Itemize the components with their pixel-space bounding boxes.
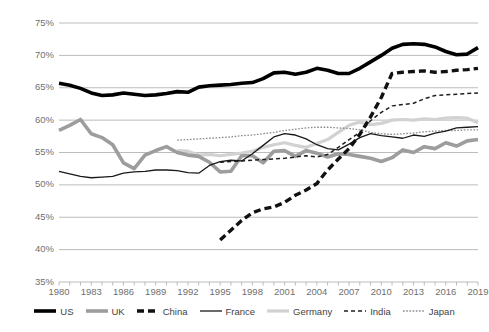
line-swatch-dashed-thick-black [137, 305, 159, 317]
y-axis-tick-label: 55% [16, 146, 54, 157]
line-swatch-dotted-gray [403, 305, 425, 317]
line-swatch-dashed-thin-black [344, 305, 366, 317]
legend-item-us[interactable]: US [34, 305, 73, 317]
legend-item-japan[interactable]: Japan [403, 305, 455, 317]
data-series-group [59, 44, 478, 240]
legend-label: China [163, 306, 188, 317]
legend-item-germany[interactable]: Germany [267, 305, 332, 317]
line-swatch-solid-thin-black [200, 305, 222, 317]
legend-label: Germany [293, 306, 332, 317]
legend-label: Japan [429, 306, 455, 317]
legend-label: France [226, 306, 256, 317]
y-axis-tick-label: 75% [16, 17, 54, 28]
line-swatch-solid-thick-gray [86, 305, 108, 317]
chart-legend: USUKChinaFranceGermanyIndiaJapan [0, 300, 489, 322]
series-line-india [220, 93, 478, 162]
y-axis-tick-label: 35% [16, 276, 54, 287]
legend-item-france[interactable]: France [200, 305, 256, 317]
y-axis-tick-label: 60% [16, 114, 54, 125]
line-swatch-solid-thick-black [34, 305, 56, 317]
legend-label: UK [112, 306, 125, 317]
legend-item-india[interactable]: India [344, 305, 391, 317]
legend-label: US [60, 306, 73, 317]
y-axis-tick-label: 65% [16, 81, 54, 92]
x-axis-tick-label: 2019 [458, 286, 489, 297]
chart-container: 35%40%45%50%55%60%65%70%75% 198019831986… [0, 0, 489, 332]
x-axis-tick-marks [59, 282, 478, 286]
legend-item-uk[interactable]: UK [86, 305, 125, 317]
y-axis-tick-label: 45% [16, 211, 54, 222]
line-swatch-solid-thick-lightgray [267, 305, 289, 317]
y-axis-tick-label: 70% [16, 49, 54, 60]
y-axis-tick-label: 40% [16, 243, 54, 254]
line-chart-plot [0, 0, 489, 332]
legend-label: India [370, 306, 391, 317]
y-axis-tick-label: 50% [16, 178, 54, 189]
legend-item-china[interactable]: China [137, 305, 188, 317]
